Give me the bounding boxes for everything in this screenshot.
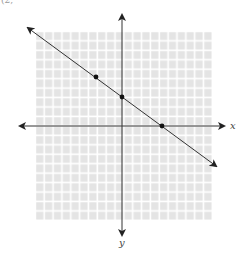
coordinate-plane: x y [0, 0, 249, 258]
point-a [94, 75, 99, 80]
y-axis-label: y [118, 237, 125, 248]
x-axis-label: x [230, 120, 236, 131]
x-intercept-point [160, 124, 165, 129]
y-intercept-point [120, 95, 125, 100]
